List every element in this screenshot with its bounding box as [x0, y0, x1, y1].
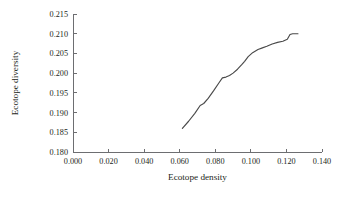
- data-series-line: [182, 34, 298, 129]
- x-tick-label: 0.020: [99, 157, 117, 166]
- x-tick-label: 0.120: [277, 157, 295, 166]
- x-tick-label: 0.100: [242, 157, 260, 166]
- y-tick-label: 0.215: [50, 10, 68, 19]
- y-tick-label: 0.205: [50, 49, 68, 58]
- x-axis-tick-marks: [73, 149, 322, 153]
- y-tick-label: 0.190: [50, 109, 68, 118]
- x-tick-label: 0.060: [171, 157, 189, 166]
- x-axis-title: Ecotope density: [168, 172, 227, 182]
- y-tick-label: 0.180: [50, 148, 68, 157]
- y-tick-label: 0.195: [50, 89, 68, 98]
- y-tick-label: 0.210: [50, 30, 68, 39]
- x-tick-label: 0.000: [64, 157, 82, 166]
- y-tick-label: 0.200: [50, 69, 68, 78]
- x-tick-label: 0.140: [313, 157, 331, 166]
- x-tick-label: 0.040: [135, 157, 153, 166]
- y-axis-title: Ecotope diversity: [10, 50, 20, 115]
- y-axis-tick-labels: 0.1800.1850.1900.1950.2000.2050.2100.215: [50, 10, 68, 157]
- line-chart: 0.1800.1850.1900.1950.2000.2050.2100.215…: [0, 0, 347, 199]
- chart-figure: 0.1800.1850.1900.1950.2000.2050.2100.215…: [0, 0, 347, 199]
- y-axis-tick-marks: [73, 14, 77, 152]
- x-axis-tick-labels: 0.0000.0200.0400.0600.0800.1000.1200.140: [64, 157, 331, 166]
- x-tick-label: 0.080: [206, 157, 224, 166]
- y-tick-label: 0.185: [50, 128, 68, 137]
